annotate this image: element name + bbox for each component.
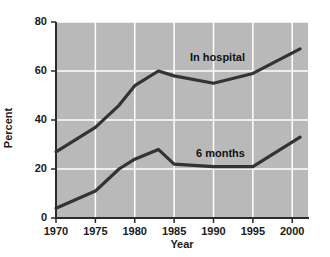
series-annotation-in-hospital: In hospital	[190, 51, 245, 63]
line-chart: Percent Year 020406080 19701975198019851…	[0, 0, 330, 257]
y-axis-title: Percent	[2, 88, 14, 168]
chart-canvas	[0, 0, 330, 257]
y-tick-label: 40	[21, 114, 47, 125]
y-tick-label: 60	[21, 65, 47, 76]
x-axis-title: Year	[55, 238, 309, 250]
x-tick-label: 1990	[192, 226, 236, 237]
y-tick-label: 20	[21, 163, 47, 174]
x-tick-label: 1975	[73, 226, 117, 237]
x-tick-label: 1995	[231, 226, 275, 237]
x-tick-label: 1980	[113, 226, 157, 237]
x-tick-label: 1970	[34, 226, 78, 237]
x-tick-label: 2000	[270, 226, 314, 237]
y-tick-label: 0	[21, 212, 47, 223]
x-tick-label: 1985	[152, 226, 196, 237]
y-tick-label: 80	[21, 16, 47, 27]
series-annotation-6-months: 6 months	[196, 147, 245, 159]
